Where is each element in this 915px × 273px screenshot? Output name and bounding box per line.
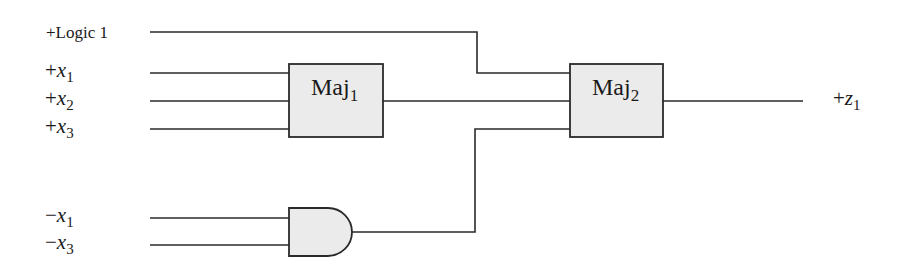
sign: − [45, 230, 57, 254]
block-name: Maj [311, 74, 350, 100]
sign: + [45, 114, 57, 138]
and-gate [289, 208, 352, 256]
subscript: 1 [853, 97, 861, 113]
subscript: 2 [66, 97, 74, 113]
sign: − [45, 203, 57, 227]
sign: + [45, 86, 57, 110]
block-subscript: 2 [631, 86, 640, 105]
input-label-x1: +x1 [45, 60, 74, 85]
subscript: 3 [66, 125, 74, 141]
variable: x [57, 203, 66, 227]
sign: + [833, 86, 845, 110]
subscript: 1 [66, 214, 74, 230]
input-label-logic1: +Logic 1 [46, 24, 108, 41]
variable: x [57, 230, 66, 254]
subscript: 1 [66, 69, 74, 85]
label-text: Logic 1 [56, 23, 108, 42]
variable: x [57, 114, 66, 138]
input-label-x2: +x2 [45, 88, 74, 113]
variable: z [845, 86, 853, 110]
input-label-not-x3: −x3 [45, 232, 74, 257]
subscript: 3 [66, 241, 74, 257]
maj1-label: Maj1 [311, 75, 358, 104]
block-name: Maj [592, 74, 631, 100]
output-label-z1: +z1 [833, 88, 861, 113]
wire-and-to-maj2 [352, 129, 570, 232]
input-label-x3: +x3 [45, 116, 74, 141]
block-subscript: 1 [350, 86, 359, 105]
circuit-wiring [0, 0, 915, 273]
variable: x [57, 86, 66, 110]
maj2-label: Maj2 [592, 75, 639, 104]
variable: x [57, 58, 66, 82]
sign: + [45, 58, 57, 82]
input-label-not-x1: −x1 [45, 205, 74, 230]
sign: + [46, 23, 56, 42]
